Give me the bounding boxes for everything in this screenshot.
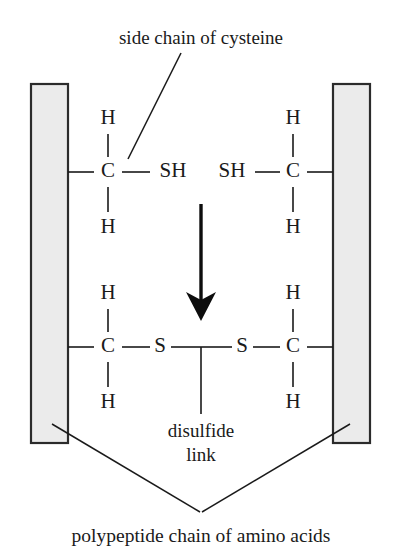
side-chain-leader-line <box>128 53 181 159</box>
polypeptide-chain-bar-right <box>333 84 370 443</box>
atom-h-bottom-right-upper: H <box>285 214 300 238</box>
atom-s-right-lower: S <box>236 333 248 357</box>
atom-h-top-right-lower: H <box>285 280 300 304</box>
atom-s-left-lower: S <box>154 333 166 357</box>
atom-c-right-lower: C <box>286 333 300 357</box>
side-chain-annotation-label: side chain of cysteine <box>119 27 283 48</box>
atom-h-top-left-upper: H <box>100 105 115 129</box>
atom-h-bottom-left-lower: H <box>100 389 115 413</box>
atom-c-left-lower: C <box>101 333 115 357</box>
disulfide-link-label-line2: link <box>186 444 216 465</box>
atom-h-bottom-left-upper: H <box>100 214 115 238</box>
polypeptide-chain-bar-left <box>31 84 68 443</box>
group-sh-left-upper: SH <box>160 158 187 182</box>
cysteine-disulfide-diagram: side chain of cysteine H C SH H SH H C H <box>0 0 402 560</box>
disulfide-link-label-line1: disulfide <box>168 420 235 441</box>
group-sh-right-upper: SH <box>219 158 246 182</box>
atom-c-right-upper: C <box>286 158 300 182</box>
atom-h-top-right-upper: H <box>285 105 300 129</box>
atom-h-bottom-right-lower: H <box>285 389 300 413</box>
diagram-canvas: side chain of cysteine H C SH H SH H C H <box>0 0 402 560</box>
atom-h-top-left-lower: H <box>100 280 115 304</box>
atom-c-left-upper: C <box>101 158 115 182</box>
polypeptide-chain-caption: polypeptide chain of amino acids <box>72 525 331 546</box>
